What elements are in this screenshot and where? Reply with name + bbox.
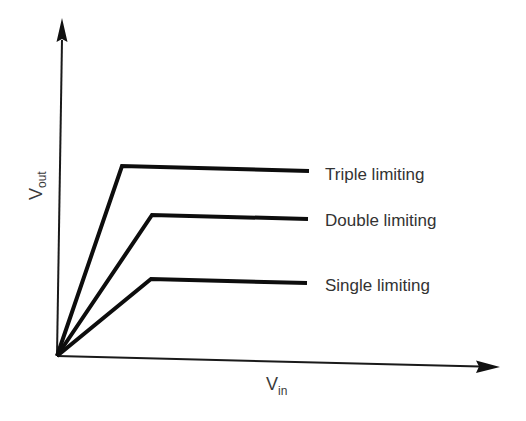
label-triple-limiting: Triple limiting xyxy=(325,165,425,184)
label-double-limiting: Double limiting xyxy=(325,211,437,230)
limiting-characteristics-diagram: Triple limiting Double limiting Single l… xyxy=(0,0,526,421)
x-axis-label: V in xyxy=(266,374,287,398)
y-axis-line xyxy=(57,40,62,356)
y-axis xyxy=(57,18,68,356)
y-axis-label-sub: out xyxy=(35,171,49,188)
x-axis-arrow-icon xyxy=(476,361,500,374)
curve-single-limiting xyxy=(57,279,307,356)
x-axis-line xyxy=(57,356,480,367)
x-axis-label-main: V xyxy=(266,374,278,394)
y-axis-arrow-icon xyxy=(57,18,68,42)
label-single-limiting: Single limiting xyxy=(325,276,430,295)
y-axis-label-main: V xyxy=(26,188,46,200)
x-axis xyxy=(57,356,500,373)
curve-double-limiting xyxy=(57,215,308,356)
x-axis-label-sub: in xyxy=(278,384,287,398)
y-axis-label: V out xyxy=(26,171,49,200)
